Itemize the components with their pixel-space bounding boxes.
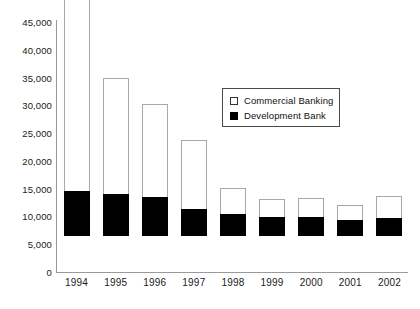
bars-layer [57, 0, 409, 273]
x-axis-tick-label: 2002 [363, 277, 415, 288]
legend-swatch-commercial-banking-icon [230, 97, 238, 105]
bar-segment-development-bank [337, 220, 363, 236]
y-axis-tick-label: 25,000 [4, 128, 52, 139]
bar-group [220, 188, 246, 236]
bar-segment-development-bank [142, 197, 168, 236]
y-axis-tick-label: 35,000 [4, 72, 52, 83]
bar-group [142, 104, 168, 236]
legend-item-development-bank: Development Bank [230, 108, 332, 123]
y-axis-tick-label: 30,000 [4, 100, 52, 111]
y-axis-tick-label: 45,000 [4, 17, 52, 28]
bar-group [376, 196, 402, 236]
bar-group [298, 198, 324, 236]
y-axis-tick-label: 20,000 [4, 155, 52, 166]
legend-label-commercial-banking: Commercial Banking [244, 95, 333, 106]
legend-swatch-development-bank-icon [230, 112, 238, 120]
bar-segment-commercial-banking [181, 140, 207, 209]
y-axis-tick-labels: 05,00010,00015,00020,00025,00030,00035,0… [0, 0, 52, 309]
bar-segment-development-bank [220, 214, 246, 236]
bar-segment-commercial-banking [259, 199, 285, 217]
bar-segment-commercial-banking [298, 198, 324, 217]
y-axis-tick-label: 0 [4, 267, 52, 278]
bar-segment-commercial-banking [103, 78, 129, 194]
chart-legend: Commercial Banking Development Bank [222, 88, 340, 127]
bar-segment-development-bank [103, 194, 129, 236]
bar-segment-development-bank [181, 209, 207, 236]
bar-segment-development-bank [298, 217, 324, 236]
bar-segment-commercial-banking [64, 0, 90, 191]
bar-segment-development-bank [259, 217, 285, 236]
bar-segment-commercial-banking [337, 205, 363, 220]
legend-item-commercial-banking: Commercial Banking [230, 93, 332, 108]
bar-group [259, 199, 285, 236]
y-axis-tick-label: 5,000 [4, 239, 52, 250]
legend-label-development-bank: Development Bank [244, 110, 326, 121]
bar-group [181, 140, 207, 236]
y-axis-tick-label: 15,000 [4, 183, 52, 194]
bar-group [337, 205, 363, 236]
bar-segment-commercial-banking [376, 196, 402, 218]
y-axis-tick-label: 10,000 [4, 211, 52, 222]
bar-segment-development-bank [376, 218, 402, 236]
bar-segment-commercial-banking [142, 104, 168, 197]
chart-container: 05,00010,00015,00020,00025,00030,00035,0… [0, 0, 420, 309]
bar-group [103, 78, 129, 236]
bar-group [64, 0, 90, 236]
y-axis-tick-label: 40,000 [4, 44, 52, 55]
bar-segment-commercial-banking [220, 188, 246, 214]
bar-segment-development-bank [64, 191, 90, 236]
